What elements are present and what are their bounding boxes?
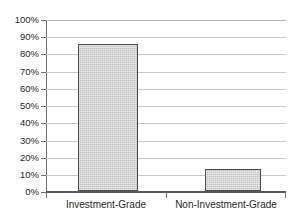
y-axis-tick-label: 100% [0, 15, 39, 25]
gridline-100 [46, 20, 286, 21]
x-axis-tick-mark [166, 192, 167, 198]
gridline-90 [46, 37, 286, 38]
y-axis-tick-label: 90% [0, 32, 39, 42]
y-axis-tick-label: 0% [0, 187, 39, 197]
y-axis-tick-label: 20% [0, 153, 39, 163]
bar-chart: 100% 90% 80% 70% 60% 50% 40% 30% 20% 10%… [0, 0, 302, 224]
plot-area [46, 20, 286, 192]
y-axis-tick-label: 50% [0, 101, 39, 111]
x-axis-category-label-investment-grade: Investment-Grade [46, 199, 166, 211]
x-axis-tick-mark [285, 192, 286, 198]
y-axis-tick-label: 60% [0, 84, 39, 94]
y-axis-tick-label: 10% [0, 170, 39, 180]
y-axis-tick-label: 70% [0, 67, 39, 77]
bar-investment-grade [78, 44, 138, 191]
y-axis-tick-label: 80% [0, 49, 39, 59]
x-axis-category-label-non-investment-grade: Non-Investment-Grade [166, 199, 286, 211]
y-axis-tick-label: 30% [0, 136, 39, 146]
x-axis-tick-mark [46, 192, 47, 198]
y-axis-tick-label: 40% [0, 118, 39, 128]
bar-non-investment-grade [205, 169, 261, 191]
